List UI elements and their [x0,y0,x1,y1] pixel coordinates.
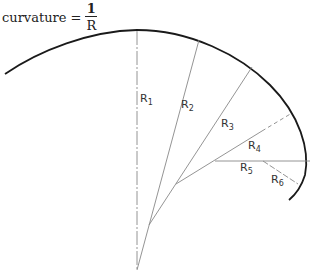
label-r4: R4 [248,139,261,154]
label-r5: R5 [240,161,253,176]
label-r2: R2 [181,98,194,113]
radius-r2-line [137,40,199,270]
radius-r4-dashed [262,113,292,131]
radius-r3-line [149,67,252,225]
label-r1: R1 [140,92,153,107]
diagram-svg: R1 R2 R3 R4 R5 R6 [0,0,311,276]
curvature-diagram: curvature = 1 R R1 R2 R3 R4 R5 R6 [0,0,311,276]
curve [5,30,306,200]
label-r3: R3 [221,117,234,132]
label-r6: R6 [271,173,284,188]
